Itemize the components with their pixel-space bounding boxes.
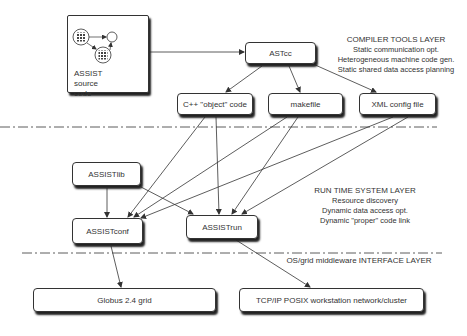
node-cpp-object-code[interactable]: C++ "object" code: [177, 93, 253, 115]
node-assistrun[interactable]: ASSISTrun: [186, 215, 258, 239]
node-makefile-label: makefile: [291, 100, 321, 109]
interface-layer-annotation: OS/grid middleware INTERFACE LAYER: [284, 256, 434, 266]
compiler-layer-item: Static shared data access planning: [326, 65, 466, 75]
source-label-line-2: source: [74, 79, 102, 89]
source-box-label: ASSIST source code: [74, 69, 102, 99]
node-tcpip-posix-label: TCP/IP POSIX workstation network/cluster: [256, 296, 407, 305]
node-makefile[interactable]: makefile: [268, 93, 343, 115]
node-xml-config-file[interactable]: XML config file: [359, 93, 436, 115]
runtime-layer-item: Resource discovery: [300, 196, 430, 206]
assist-source-code-box[interactable]: ASSIST source code: [67, 15, 149, 93]
node-assistlib-label: ASSISTlib: [88, 170, 124, 179]
node-assistconf-label: ASSISTconf: [86, 227, 129, 236]
node-globus-grid[interactable]: Globus 2.4 grid: [33, 288, 216, 312]
node-xml-config-file-label: XML config file: [371, 100, 423, 109]
interface-layer-title: OS/grid middleware INTERFACE LAYER: [284, 256, 434, 266]
source-label-line-3: code: [74, 89, 102, 99]
node-globus-grid-label: Globus 2.4 grid: [97, 296, 151, 305]
node-assistlib[interactable]: ASSISTlib: [72, 162, 141, 186]
node-astcc-label: ASTcc: [269, 49, 292, 58]
compiler-layer-item: Static communication opt.: [326, 45, 466, 55]
runtime-layer-item: Dynamic data access opt.: [300, 206, 430, 216]
node-astcc[interactable]: ASTcc: [245, 42, 316, 64]
runtime-layer-title: RUN TIME SYSTEM LAYER: [300, 186, 430, 196]
compiler-tools-layer-annotation: COMPILER TOOLS LAYER Static communicatio…: [326, 35, 466, 75]
source-label-line-1: ASSIST: [74, 69, 102, 79]
node-assistconf[interactable]: ASSISTconf: [72, 218, 143, 244]
node-assistrun-label: ASSISTrun: [202, 223, 242, 232]
compiler-layer-title: COMPILER TOOLS LAYER: [326, 35, 466, 45]
node-cpp-object-code-label: C++ "object" code: [183, 100, 247, 109]
runtime-system-layer-annotation: RUN TIME SYSTEM LAYER Resource discovery…: [300, 186, 430, 226]
node-tcpip-posix[interactable]: TCP/IP POSIX workstation network/cluster: [239, 288, 424, 312]
runtime-layer-item: Dynamic "proper" code link: [300, 216, 430, 226]
process-graph-icon: [68, 16, 148, 68]
compiler-layer-item: Heterogeneous machine code gen.: [326, 55, 466, 65]
